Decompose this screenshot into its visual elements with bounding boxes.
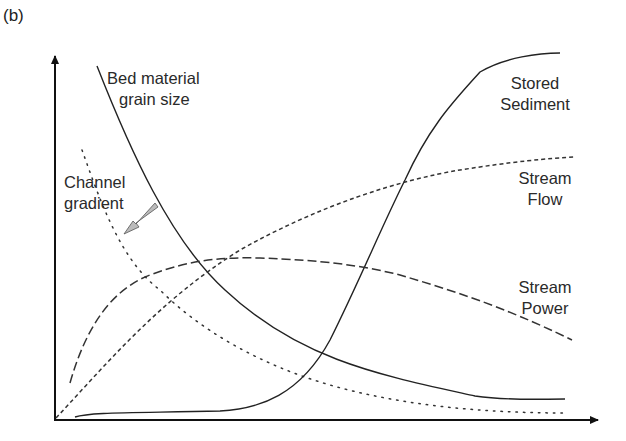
label-bed-material-line1: Bed material <box>107 68 200 89</box>
label-stored-line2: Sediment <box>493 94 577 115</box>
annotation-arrow-icon <box>124 203 158 234</box>
curve-bed-material-grain-size <box>97 66 565 399</box>
curve-stream-flow <box>56 157 575 418</box>
label-flow-line2: Flow <box>510 189 580 210</box>
curve-stream-power <box>70 258 572 383</box>
label-power-line1: Stream <box>510 277 580 298</box>
label-channel-gradient: Channel gradient <box>64 172 125 214</box>
label-flow-line1: Stream <box>510 168 580 189</box>
label-bed-material: Bed material grain size <box>107 68 200 110</box>
label-power-line2: Power <box>510 298 580 319</box>
label-channel-line2: gradient <box>64 193 125 214</box>
label-stream-flow: Stream Flow <box>510 168 580 210</box>
label-stored-line1: Stored <box>493 73 577 94</box>
label-channel-line1: Channel <box>64 172 125 193</box>
label-bed-material-line2: grain size <box>107 89 200 110</box>
label-stored-sediment: Stored Sediment <box>493 73 577 115</box>
label-stream-power: Stream Power <box>510 277 580 319</box>
diagram-canvas <box>0 0 626 441</box>
curve-channel-gradient <box>82 150 565 413</box>
